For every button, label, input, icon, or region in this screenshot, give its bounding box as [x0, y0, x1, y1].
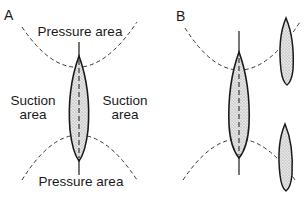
sailing-pressure-diagram: A Pressure area Suction area Suction are… — [0, 0, 307, 197]
panel-b-label: B — [176, 8, 185, 24]
suction-area-right-label-line2: area — [111, 107, 139, 122]
hull-b-lower-right — [279, 124, 292, 191]
suction-area-left-label-line1: Suction — [10, 93, 55, 108]
pressure-area-bottom-label: Pressure area — [39, 174, 124, 189]
suction-area-left-label-line2: area — [19, 107, 47, 122]
pressure-area-top-label: Pressure area — [38, 24, 123, 39]
panel-a: A Pressure area Suction area Suction are… — [4, 7, 148, 189]
hull-b-upper-right — [280, 18, 293, 85]
suction-area-right-label-line1: Suction — [102, 93, 147, 108]
panel-b: B — [176, 8, 300, 191]
panel-a-label: A — [4, 7, 14, 23]
